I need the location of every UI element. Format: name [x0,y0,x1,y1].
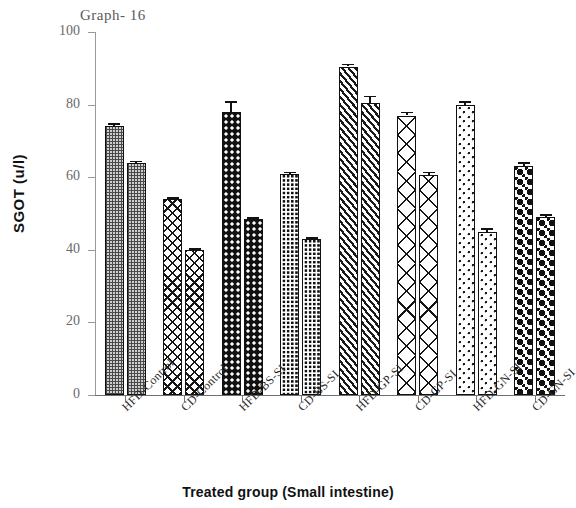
bar [127,163,146,395]
error-bar-cap [459,101,471,103]
bar [185,250,204,395]
y-tick-mark [88,322,95,323]
bar [105,126,124,395]
bar [280,174,299,395]
bar [478,232,497,395]
chart-figure: Graph- 16 SGOT (u/l) 020406080100 HFD-Co… [0,0,576,508]
x-axis-title: Treated group (Small intestine) [0,484,576,500]
bar [222,112,241,395]
bar [536,217,555,395]
y-tick-label: 20 [36,313,80,329]
bar [361,103,380,395]
bar [302,239,321,395]
error-bar-cap [423,172,435,174]
error-bar-cap [518,162,530,164]
error-bar-cap [401,112,413,114]
y-axis-title: SGOT (u/l) [10,124,27,264]
error-bar-cap [247,217,259,219]
bar [244,219,263,395]
y-tick-mark [88,105,95,106]
error-bar-cap [364,96,376,98]
error-bar-cap [130,161,142,163]
y-tick-mark [88,250,95,251]
error-bar-stem [230,101,232,112]
error-bar-cap [167,197,179,199]
error-bar-cap [540,214,552,216]
y-tick-mark [88,32,95,33]
error-bar-cap [108,123,120,125]
y-tick-label: 0 [36,386,80,402]
y-tick-label: 100 [36,23,80,39]
error-bar-cap [284,172,296,174]
y-axis-line [95,32,96,396]
y-tick-mark [88,395,95,396]
bar [339,67,358,396]
y-tick-mark [88,177,95,178]
error-bar-cap [306,237,318,239]
bar [419,175,438,395]
error-bar-cap [342,64,354,66]
bar [397,116,416,396]
y-tick-label: 60 [36,168,80,184]
y-tick-label: 40 [36,241,80,257]
error-bar-cap [225,101,237,103]
bar [456,105,475,395]
y-tick-label: 80 [36,96,80,112]
bar [514,166,533,395]
plot-area: 020406080100 [96,32,564,395]
error-bar-cap [481,228,493,230]
chart-title: Graph- 16 [80,7,146,24]
error-bar-cap [189,248,201,250]
